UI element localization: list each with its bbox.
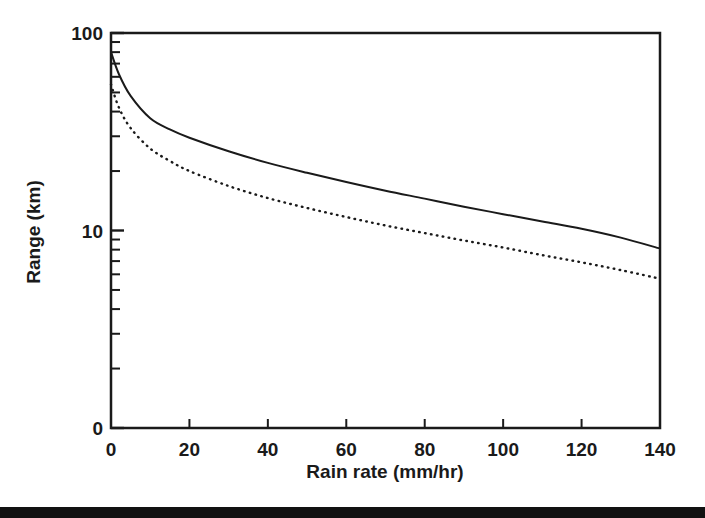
x-tick-label-20: 20 (179, 439, 200, 460)
x-tick-label-80: 80 (414, 439, 435, 460)
y-tick-label-10: 10 (82, 221, 103, 242)
y-tick-label-0: 0 (92, 418, 103, 439)
x-tick-label-100: 100 (487, 439, 519, 460)
y-axis-tick-labels: 100100 (71, 23, 103, 439)
page-edge-bar (0, 507, 705, 518)
plot-frame (111, 33, 660, 428)
x-axis-tick-labels: 020406080100120140 (106, 439, 676, 460)
y-axis-title: Range (km) (23, 180, 44, 283)
x-tick-label-140: 140 (644, 439, 676, 460)
rain-rate-range-chart: 020406080100120140 100100 Rain rate (mm/… (0, 0, 705, 518)
x-tick-label-0: 0 (106, 439, 117, 460)
figure-panel: 020406080100120140 100100 Rain rate (mm/… (0, 0, 705, 518)
x-tick-label-60: 60 (336, 439, 357, 460)
series-solid-curve (111, 52, 660, 248)
x-tick-label-40: 40 (257, 439, 278, 460)
x-tick-label-120: 120 (566, 439, 598, 460)
series-dotted-curve (111, 84, 660, 278)
y-tick-label-100: 100 (71, 23, 103, 44)
x-axis-title: Rain rate (mm/hr) (306, 461, 463, 482)
x-axis-ticks (111, 419, 660, 428)
